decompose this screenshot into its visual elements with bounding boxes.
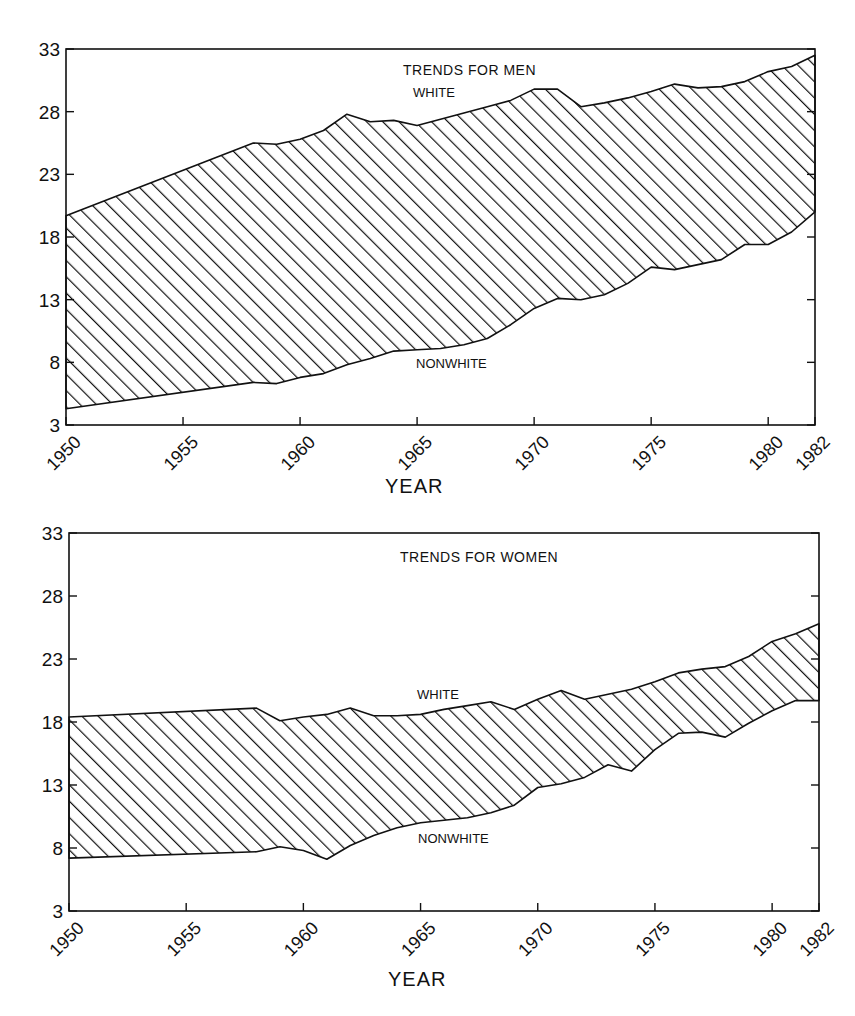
x-tick-label: 1982 bbox=[792, 432, 834, 474]
y-tick-label: 3 bbox=[49, 415, 60, 436]
x-tick-label: 1960 bbox=[280, 918, 322, 960]
y-tick-label: 28 bbox=[42, 586, 63, 607]
x-tick-label: 1970 bbox=[511, 432, 553, 474]
y-tick-label: 28 bbox=[39, 102, 60, 123]
series-label-nonwhite: NONWHITE bbox=[418, 831, 489, 846]
plot-area: 381318232833 195019551960196519701975198… bbox=[39, 39, 834, 474]
y-tick-label: 23 bbox=[39, 164, 60, 185]
x-tick-label: 1960 bbox=[277, 432, 319, 474]
chart-title: TRENDS FOR WOMEN bbox=[400, 549, 558, 565]
x-tick-label: 1955 bbox=[163, 918, 205, 960]
y-tick-label: 13 bbox=[39, 290, 60, 311]
plot-area: 381318232833 195019551960196519701975198… bbox=[42, 523, 838, 960]
x-tick-label: 1965 bbox=[394, 432, 436, 474]
chart-women-svg: 381318232833 195019551960196519701975198… bbox=[0, 505, 855, 1016]
y-tick-label: 33 bbox=[42, 523, 63, 544]
hatched-band-white-to-nonwhite bbox=[69, 624, 819, 860]
x-axis-title: YEAR bbox=[388, 968, 446, 990]
x-tick-label: 1982 bbox=[796, 918, 838, 960]
y-tick-label: 8 bbox=[49, 352, 60, 373]
y-tick-label: 23 bbox=[42, 649, 63, 670]
series-label-white: WHITE bbox=[417, 687, 459, 702]
x-tick-label: 1975 bbox=[631, 918, 673, 960]
chart-trends-for-men: 381318232833 195019551960196519701975198… bbox=[0, 0, 855, 500]
y-tick-label: 3 bbox=[52, 901, 63, 922]
x-tick-label: 1965 bbox=[397, 918, 439, 960]
x-tick-label: 1975 bbox=[628, 432, 670, 474]
x-tick-label: 1950 bbox=[46, 918, 88, 960]
y-tick-label: 8 bbox=[52, 838, 63, 859]
chart-title: TRENDS FOR MEN bbox=[403, 62, 536, 78]
y-tick-label: 13 bbox=[42, 775, 63, 796]
y-tick-label: 18 bbox=[39, 227, 60, 248]
x-tick-label: 1955 bbox=[160, 432, 202, 474]
series-label-white: WHITE bbox=[413, 85, 455, 100]
x-axis-title: YEAR bbox=[385, 475, 443, 497]
series-label-nonwhite: NONWHITE bbox=[416, 356, 487, 371]
chart-trends-for-women: 381318232833 195019551960196519701975198… bbox=[0, 505, 855, 1016]
chart-men-svg: 381318232833 195019551960196519701975198… bbox=[0, 0, 855, 500]
x-tick-label: 1980 bbox=[749, 918, 791, 960]
y-tick-label: 18 bbox=[42, 712, 63, 733]
x-tick-label: 1950 bbox=[43, 432, 85, 474]
x-tick-label: 1970 bbox=[514, 918, 556, 960]
x-tick-label: 1980 bbox=[745, 432, 787, 474]
y-tick-label: 33 bbox=[39, 39, 60, 60]
